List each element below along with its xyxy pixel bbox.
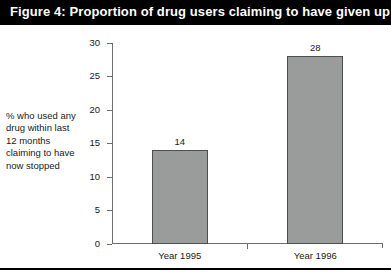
y-axis-tick: 20: [107, 110, 112, 111]
y-axis-caption: % who used any drug within last 12 month…: [6, 110, 90, 172]
y-axis-caption-line-5: now stopped: [6, 160, 90, 172]
y-axis-caption-line-3: 12 months: [6, 135, 90, 147]
y-axis-tick: 5: [107, 210, 112, 211]
y-axis-tick-label: 15: [89, 137, 100, 148]
figure-title-bar: Figure 4: Proportion of drug users claim…: [0, 0, 391, 25]
y-axis-tick-label: 20: [89, 104, 100, 115]
y-axis-caption-line-2: drug within last: [6, 122, 90, 134]
y-axis-line: [112, 43, 113, 244]
y-axis-caption-line-1: % who used any: [6, 110, 90, 122]
category-divider-tick: [247, 243, 248, 249]
y-axis-tick: 30: [107, 43, 112, 44]
bar: 14: [152, 150, 208, 244]
y-axis-tick-label: 25: [89, 70, 100, 81]
y-axis-tick-label: 10: [89, 171, 100, 182]
x-axis-category-label: Year 1996: [248, 250, 384, 261]
figure-title: Figure 4: Proportion of drug users claim…: [10, 4, 390, 19]
plot-area: 051015202530 1428: [112, 43, 383, 244]
y-axis-tick-label: 5: [95, 204, 100, 215]
y-axis-tick: 25: [107, 76, 112, 77]
bottom-rule: [0, 268, 391, 270]
bar-value-label: 14: [153, 136, 207, 147]
bar-value-label: 28: [288, 42, 342, 53]
x-axis-end-tick: [382, 243, 383, 248]
y-axis-tick: 10: [107, 177, 112, 178]
y-axis-tick: 0: [107, 244, 112, 245]
y-axis-tick: 15: [107, 143, 112, 144]
y-axis-caption-line-4: claiming to have: [6, 147, 90, 159]
y-axis-tick-label: 30: [89, 37, 100, 48]
figure-container: Figure 4: Proportion of drug users claim…: [0, 0, 391, 277]
y-axis-tick-label: 0: [95, 238, 100, 249]
x-axis-category-label: Year 1995: [112, 250, 248, 261]
bar: 28: [287, 56, 343, 244]
